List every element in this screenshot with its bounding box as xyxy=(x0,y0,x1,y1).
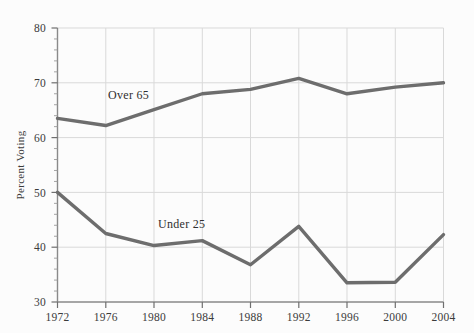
x-tick-label: 1976 xyxy=(94,311,118,323)
x-tick-labels: 1972 1976 1980 1984 1988 1992 1996 2000 … xyxy=(45,311,455,323)
y-tick-labels: 80 70 60 50 40 30 xyxy=(34,22,46,308)
y-tick-label: 50 xyxy=(34,187,46,199)
x-tick-label: 2004 xyxy=(431,311,455,323)
x-tick-label: 1980 xyxy=(142,311,166,323)
x-tick-label: 1972 xyxy=(45,311,69,323)
x-gridlines xyxy=(58,28,444,302)
line-chart: 80 70 60 50 40 30 1972 1976 1980 1984 19… xyxy=(0,0,474,333)
y-tick-label: 70 xyxy=(34,77,46,89)
x-tick-label: 2000 xyxy=(383,311,407,323)
y-tick-label: 40 xyxy=(34,241,46,253)
x-tick-label: 1996 xyxy=(335,311,359,323)
series-label-over-65: Over 65 xyxy=(108,88,149,102)
x-tick-label: 1992 xyxy=(287,311,311,323)
y-major-ticks xyxy=(52,28,58,302)
chart-container: 80 70 60 50 40 30 1972 1976 1980 1984 19… xyxy=(0,0,474,333)
y-tick-label: 30 xyxy=(34,296,46,308)
y-tick-label: 60 xyxy=(34,132,46,144)
y-axis-title: Percent Voting xyxy=(14,130,26,199)
x-tick-label: 1984 xyxy=(190,311,214,323)
x-tick-label: 1988 xyxy=(238,311,262,323)
series-label-under-25: Under 25 xyxy=(158,217,205,231)
y-tick-label: 80 xyxy=(34,22,46,34)
x-ticks xyxy=(58,302,444,308)
